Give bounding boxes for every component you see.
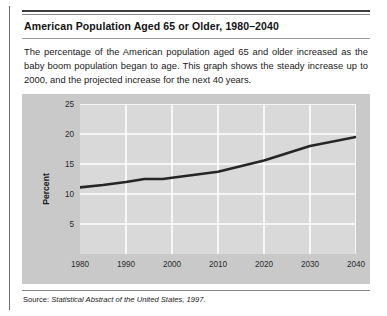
x-axis-ticks: 1980199020002010202020302040	[80, 260, 356, 272]
figure-caption-text: The percentage of the American populatio…	[22, 39, 370, 94]
y-tick-label: 25	[65, 99, 74, 108]
y-tick-label: 15	[65, 159, 74, 168]
x-tick-label: 2040	[347, 260, 365, 269]
source-note: Source: Statistical Abstract of the Unit…	[22, 291, 370, 304]
y-axis-ticks: 510152025	[22, 104, 74, 254]
chart-area: Percent 510152025 1980199020002010202020…	[22, 94, 370, 284]
x-tick-label: 2000	[163, 260, 181, 269]
x-tick-label: 2010	[209, 260, 227, 269]
plot-region	[80, 104, 356, 254]
source-suffix: .	[203, 295, 205, 304]
source-title: Statistical Abstract of the United State…	[51, 295, 203, 304]
figure-box: American Population Aged 65 or Older, 19…	[0, 0, 387, 316]
figure-content: American Population Aged 65 or Older, 19…	[22, 10, 370, 304]
y-tick-label: 10	[65, 189, 74, 198]
y-tick-label: 20	[65, 129, 74, 138]
left-margin-rule	[9, 6, 10, 310]
source-prefix: Source:	[23, 295, 51, 304]
x-tick-label: 1980	[71, 260, 89, 269]
y-tick-label: 5	[69, 219, 74, 228]
x-tick-label: 2020	[255, 260, 273, 269]
x-tick-label: 2030	[301, 260, 319, 269]
rule-top	[22, 10, 370, 12]
x-tick-label: 1990	[117, 260, 135, 269]
figure-title: American Population Aged 65 or Older, 19…	[22, 15, 370, 38]
line-chart-svg	[80, 104, 356, 254]
